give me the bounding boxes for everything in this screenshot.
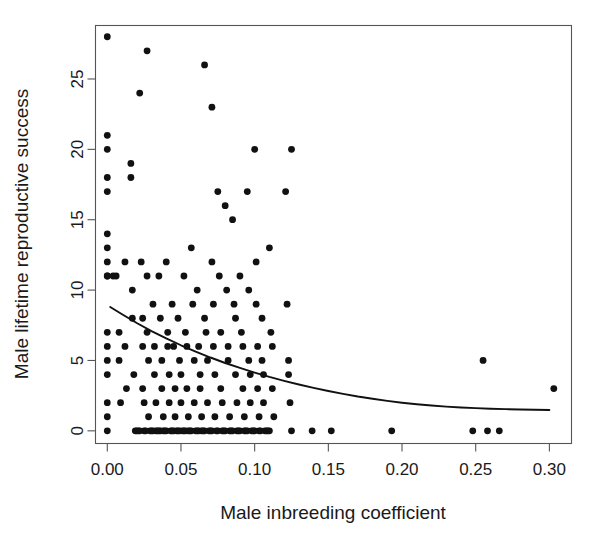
data-point <box>160 413 167 420</box>
data-point <box>270 413 277 420</box>
data-point <box>191 357 198 364</box>
data-point <box>104 188 111 195</box>
data-point <box>145 413 152 420</box>
data-point <box>127 174 134 181</box>
data-point <box>245 357 252 364</box>
data-point <box>185 413 192 420</box>
data-point <box>151 371 158 378</box>
data-point <box>116 329 123 336</box>
data-point <box>104 230 111 237</box>
data-point <box>203 329 210 336</box>
data-point <box>104 399 111 406</box>
data-point <box>245 287 252 294</box>
data-point <box>164 343 171 350</box>
data-point <box>211 371 218 378</box>
data-point <box>328 427 335 434</box>
data-point <box>178 399 185 406</box>
data-point <box>139 315 146 322</box>
data-point <box>163 259 170 266</box>
data-point <box>239 343 246 350</box>
data-point <box>288 146 295 153</box>
data-point <box>209 259 216 266</box>
data-point <box>225 343 232 350</box>
data-point <box>104 413 111 420</box>
data-point <box>269 343 276 350</box>
data-point <box>239 385 246 392</box>
x-axis-title: Male inbreeding coefficient <box>220 502 446 523</box>
data-point <box>269 385 276 392</box>
data-point <box>209 104 216 111</box>
data-point <box>210 343 217 350</box>
data-point <box>211 413 218 420</box>
data-point <box>188 244 195 251</box>
data-point <box>104 174 111 181</box>
data-point <box>183 385 190 392</box>
data-point <box>172 413 179 420</box>
data-point <box>309 427 316 434</box>
data-point <box>139 343 146 350</box>
data-point <box>136 90 143 97</box>
data-point <box>217 329 224 336</box>
x-tick-label: 0.25 <box>459 460 492 479</box>
data-point <box>247 399 254 406</box>
data-point <box>104 132 111 139</box>
data-point <box>129 287 136 294</box>
data-point <box>166 399 173 406</box>
data-point <box>197 371 204 378</box>
data-point <box>116 357 123 364</box>
data-point <box>170 343 177 350</box>
data-point <box>189 301 196 308</box>
data-point <box>104 343 111 350</box>
data-point <box>198 413 205 420</box>
data-point <box>178 371 185 378</box>
y-tick-label: 5 <box>68 356 87 365</box>
data-point <box>104 273 111 280</box>
data-point <box>260 399 267 406</box>
data-point <box>214 188 221 195</box>
data-point <box>259 357 266 364</box>
data-point <box>195 343 202 350</box>
data-point <box>484 427 491 434</box>
x-tick-label: 0.15 <box>312 460 345 479</box>
data-point <box>234 399 241 406</box>
data-point <box>158 385 165 392</box>
data-point <box>217 385 224 392</box>
data-point <box>144 273 151 280</box>
data-point <box>284 301 291 308</box>
data-point <box>229 216 236 223</box>
data-point <box>158 357 165 364</box>
data-point <box>104 371 111 378</box>
data-point <box>469 427 476 434</box>
data-point <box>237 273 244 280</box>
data-point <box>153 399 160 406</box>
data-point <box>210 301 217 308</box>
data-point <box>194 287 201 294</box>
data-point <box>259 315 266 322</box>
x-tick-label: 0.05 <box>164 460 197 479</box>
data-point <box>176 357 183 364</box>
data-point <box>253 259 260 266</box>
data-point <box>104 146 111 153</box>
data-point <box>150 301 157 308</box>
y-tick-label: 25 <box>68 70 87 89</box>
data-point <box>388 427 395 434</box>
data-point <box>145 357 152 364</box>
y-tick-label: 10 <box>68 281 87 300</box>
data-point <box>244 188 251 195</box>
data-point <box>151 343 158 350</box>
data-point <box>113 273 120 280</box>
data-point <box>197 385 204 392</box>
figure-background <box>0 0 600 539</box>
data-point <box>232 315 239 322</box>
y-tick-label: 15 <box>68 210 87 229</box>
data-point <box>231 301 238 308</box>
data-point <box>123 385 130 392</box>
data-point <box>256 413 263 420</box>
data-point <box>241 413 248 420</box>
data-point <box>480 357 487 364</box>
y-axis-title: Male lifetime reproductive success <box>11 89 32 379</box>
data-point <box>127 160 134 167</box>
y-tick-label: 0 <box>68 426 87 435</box>
data-point <box>285 371 292 378</box>
y-tick-label: 20 <box>68 140 87 159</box>
